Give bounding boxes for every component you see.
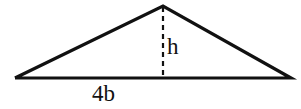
triangle-outline — [15, 6, 291, 78]
triangle-diagram: h 4b — [0, 0, 301, 109]
height-label: h — [167, 35, 179, 58]
base-label: 4b — [92, 82, 115, 105]
triangle-figure-svg — [0, 0, 301, 109]
